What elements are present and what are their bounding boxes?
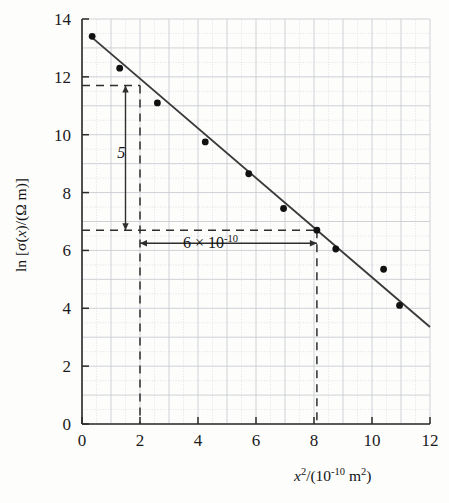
x-tick-label: 8 <box>310 431 319 450</box>
y-tick-label: 0 <box>63 415 72 434</box>
x-tick-label: 10 <box>364 431 381 450</box>
x-tick-label: 2 <box>136 431 145 450</box>
y-tick-label: 6 <box>63 241 72 260</box>
data-point <box>245 170 252 177</box>
y-tick-label: 14 <box>54 10 72 29</box>
data-point <box>396 302 403 309</box>
x-tick-label: 6 <box>252 431 261 450</box>
data-point <box>116 65 123 72</box>
data-point <box>314 227 321 234</box>
y-axis-title: ln [σ(x)/(Ω m)] <box>12 178 30 272</box>
run-annotation-exponent: -10 <box>224 233 238 244</box>
y-tick-label: 10 <box>54 126 71 145</box>
y-tick-label: 8 <box>63 184 72 203</box>
y-tick-label: 4 <box>63 299 72 318</box>
data-point <box>332 246 339 253</box>
rise-annotation-label: 5 <box>117 144 125 161</box>
chart-figure: 024681012 02468101214 5 6 × 10-10 ln [σ(… <box>0 0 449 503</box>
y-axis-title-text: ln [σ(x)/(Ω m)] <box>12 178 30 272</box>
data-point <box>202 139 209 146</box>
data-point <box>89 33 96 40</box>
y-tick-label: 2 <box>63 357 72 376</box>
data-point <box>380 266 387 273</box>
data-point <box>280 205 287 212</box>
x-tick-label: 4 <box>194 431 203 450</box>
chart-canvas: 024681012 02468101214 5 6 × 10-10 ln [σ(… <box>0 0 449 503</box>
x-tick-label: 0 <box>78 431 87 450</box>
data-point <box>154 99 161 106</box>
x-tick-label: 12 <box>422 431 439 450</box>
y-tick-label: 12 <box>54 68 71 87</box>
